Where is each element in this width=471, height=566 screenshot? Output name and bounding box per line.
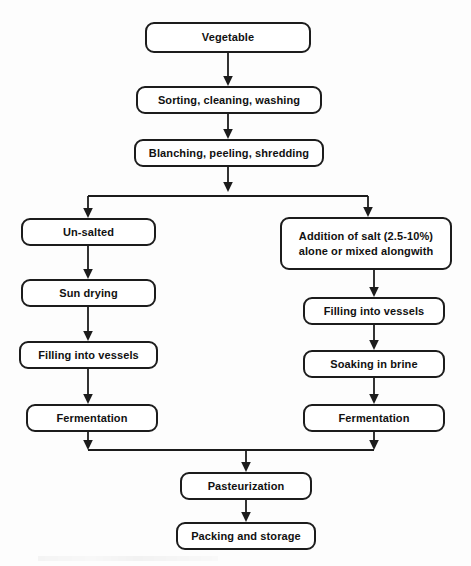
connector-unsalted-to-sun-drying [83,246,93,279]
node-label: Filling into vessels [34,348,143,362]
node-label: Fermentation [335,411,414,425]
scan-artifact [38,556,218,561]
connector-vegetable-to-sorting [223,53,233,86]
connector-pasteurization-to-packing [241,500,251,522]
node-label: Sorting, cleaning, washing [154,93,304,107]
node-fermentation-left[interactable]: Fermentation [26,404,158,432]
node-soaking-in-brine[interactable]: Soaking in brine [303,350,445,378]
node-label: Addition of salt (2.5-10%) alone or mixe… [295,229,438,259]
node-fermentation-right[interactable]: Fermentation [303,404,445,432]
node-sun-drying[interactable]: Sun drying [21,279,156,307]
flowchart-canvas: Vegetable Sorting, cleaning, washing Bla… [0,0,471,566]
node-label: Filling into vessels [320,304,429,318]
connector-split-to-unsalted [83,196,93,218]
node-label: Soaking in brine [326,357,421,371]
connector-filling-right-to-soaking [369,325,379,350]
connector-soaking-to-fermentation-right [369,378,379,404]
node-label: Vegetable [198,30,258,44]
node-label: Un-salted [59,225,118,239]
node-filling-into-vessels-right[interactable]: Filling into vessels [303,297,445,325]
connector-sun-drying-to-filling-left [83,307,93,341]
connector-blanching-to-split-bus [223,167,233,192]
connector-fermentation-right-to-merge-bus [369,432,379,450]
node-blanching-peeling-shredding[interactable]: Blanching, peeling, shredding [134,139,324,167]
node-label: Pasteurization [204,479,289,493]
node-packing-and-storage[interactable]: Packing and storage [176,522,316,550]
connector-fermentation-left-to-merge-bus [83,432,93,450]
node-un-salted[interactable]: Un-salted [21,218,156,246]
node-filling-into-vessels-left[interactable]: Filling into vessels [19,341,158,369]
node-pasteurization[interactable]: Pasteurization [180,472,312,500]
node-label: Packing and storage [187,529,305,543]
node-label: Fermentation [53,411,132,425]
connector-filling-left-to-fermentation-left [83,369,93,404]
node-label: Blanching, peeling, shredding [145,146,313,160]
node-label: Sun drying [55,286,122,300]
connector-split-to-salt-addition [363,196,373,217]
connector-sorting-to-blanching [223,114,233,139]
connector-merge-to-pasteurization [241,450,251,472]
node-vegetable[interactable]: Vegetable [145,22,311,53]
node-addition-of-salt[interactable]: Addition of salt (2.5-10%) alone or mixe… [280,217,452,270]
node-sorting-cleaning-washing[interactable]: Sorting, cleaning, washing [136,86,322,114]
connector-salt-to-filling-right [369,270,379,297]
